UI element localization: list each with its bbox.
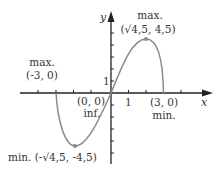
annotation-coords: (-3, 0) <box>26 69 58 81</box>
y-axis-arrow-icon <box>108 11 115 22</box>
annotation-title: max. <box>29 56 54 68</box>
annotation-title: inf. <box>84 107 101 119</box>
annotation-min-left: min. (-√4,5, -4,5) <box>8 151 97 163</box>
function-graph: x 1 y 1 max. (-3, 0) max. (√4,5, 4,5) <box>0 0 221 174</box>
x-tick-label: 1 <box>125 96 132 108</box>
annotation-title: max. <box>137 9 162 21</box>
y-tick-label: 1 <box>103 75 110 87</box>
annotation-text: min. (-√4,5, -4,5) <box>8 151 97 163</box>
annotation-max-right: max. (√4,5, 4,5) <box>121 9 176 35</box>
x-axis-label: x <box>201 96 208 109</box>
min-point-marker-icon <box>73 144 77 148</box>
y-axis: y 1 <box>99 11 115 164</box>
annotation-title: min. <box>152 109 175 121</box>
annotation-min-right: (3, 0) min. <box>150 96 178 121</box>
x-axis: x 1 <box>20 90 213 110</box>
annotation-max-left: max. (-3, 0) <box>26 56 58 81</box>
max-point-marker-icon <box>144 37 148 41</box>
annotation-coords: (0, 0) <box>77 95 105 107</box>
annotation-coords: (3, 0) <box>150 96 178 108</box>
annotation-coords: (√4,5, 4,5) <box>121 23 176 35</box>
y-axis-label: y <box>99 11 107 24</box>
